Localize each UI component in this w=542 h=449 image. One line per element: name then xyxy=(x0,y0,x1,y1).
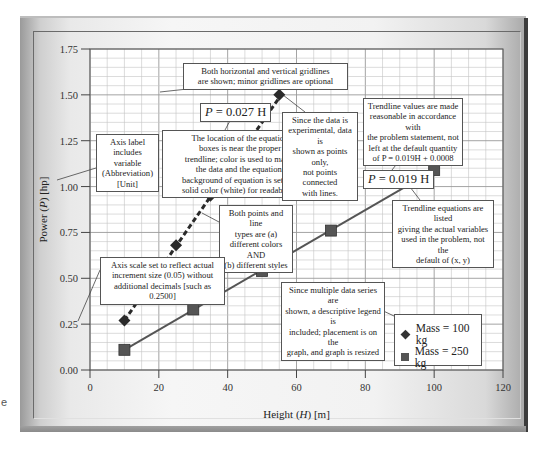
x-tick-label: 20 xyxy=(154,382,165,393)
note-axis-label: Axis labelincludesvariable(Abbreviation)… xyxy=(96,134,159,192)
x-tick-label: 60 xyxy=(291,382,302,393)
y-tick-label: 1.75 xyxy=(60,44,78,55)
note-trendline-equations: Trendline equations are listedgiving the… xyxy=(392,200,494,268)
x-tick-label: 0 xyxy=(87,382,92,393)
square-marker-icon xyxy=(188,304,199,315)
x-tick-label: 40 xyxy=(222,382,233,393)
equation-mass-250: P = 0.019 H xyxy=(363,170,434,189)
y-tick-label: 1.00 xyxy=(60,182,78,193)
square-marker-icon xyxy=(119,344,130,355)
legend: Mass = 100 kg Mass = 250 kg xyxy=(394,314,482,366)
legend-label: Mass = 100 kg xyxy=(416,322,481,346)
y-axis-title: Power (P) [hp] xyxy=(37,176,50,242)
note-axis-scale: Axis scale set to reflect actualincremen… xyxy=(100,257,225,305)
legend-item-mass-250: Mass = 250 kg xyxy=(401,345,481,369)
square-marker-icon xyxy=(325,225,336,236)
y-tick-label: 0.00 xyxy=(60,365,78,376)
equation-variable: P xyxy=(205,105,213,119)
x-tick-label: 80 xyxy=(360,382,371,393)
diamond-marker-icon xyxy=(401,329,411,339)
y-tick-label: 0.75 xyxy=(60,227,78,238)
note-experimental: Since the data isexperimental, data issh… xyxy=(282,112,358,201)
equation-text: = 0.019 H xyxy=(376,172,430,186)
note-trendline-values: Trendline values are madereasonable in a… xyxy=(363,98,463,166)
note-legend: Since multiple data series areshown, a d… xyxy=(281,282,385,361)
equation-variable: P xyxy=(368,172,376,186)
y-tick-label: 1.50 xyxy=(60,90,78,101)
y-tick-label: 0.50 xyxy=(60,273,78,284)
legend-item-mass-100: Mass = 100 kg xyxy=(401,322,481,346)
x-tick-label: 100 xyxy=(426,382,442,393)
square-marker-icon xyxy=(401,353,409,361)
equation-text: = 0.027 H xyxy=(213,105,267,119)
note-points-lines: Both points and linetypes are (a)differe… xyxy=(219,205,293,273)
x-axis-title: Height (H) [m] xyxy=(263,408,330,421)
x-tick-label: 120 xyxy=(495,382,511,393)
y-tick-label: 1.25 xyxy=(60,136,78,147)
equation-mass-100: P = 0.027 H xyxy=(200,103,271,122)
note-gridlines: Both horizontal and vertical gridlinesar… xyxy=(183,63,348,90)
legend-label: Mass = 250 kg xyxy=(415,345,481,369)
y-tick-label: 0.25 xyxy=(60,319,78,330)
